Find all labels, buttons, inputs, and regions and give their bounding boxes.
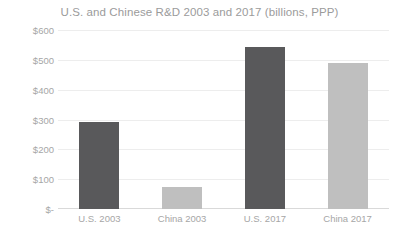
x-axis-tick-label: U.S. 2017 [224, 213, 307, 224]
y-axis-tick-label: $- [2, 204, 54, 215]
bar-china-2017 [328, 63, 368, 209]
plot-area [58, 30, 389, 209]
y-axis-tick-label: $600 [2, 25, 54, 36]
y-axis-tick-label: $500 [2, 54, 54, 65]
y-axis-tick-label: $100 [2, 174, 54, 185]
y-axis-tick-label: $200 [2, 144, 54, 155]
y-axis-tick-label: $300 [2, 114, 54, 125]
x-axis: U.S. 2003China 2003U.S. 2017China 2017 [58, 213, 389, 235]
gridline [58, 60, 389, 61]
x-axis-tick-label: U.S. 2003 [58, 213, 141, 224]
bar-china-2003 [162, 187, 202, 209]
bar-u-s-2003 [79, 122, 119, 209]
y-axis: $-$100$200$300$400$500$600 [0, 30, 54, 209]
x-axis-tick-label: China 2003 [141, 213, 224, 224]
bar-u-s-2017 [245, 47, 285, 209]
y-axis-tick-label: $400 [2, 84, 54, 95]
gridline [58, 30, 389, 31]
x-axis-tick-label: China 2017 [306, 213, 389, 224]
chart-title: U.S. and Chinese R&D 2003 and 2017 (bill… [0, 6, 399, 18]
bar-chart: U.S. and Chinese R&D 2003 and 2017 (bill… [0, 0, 399, 240]
